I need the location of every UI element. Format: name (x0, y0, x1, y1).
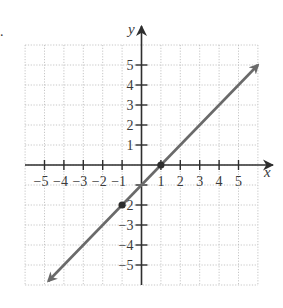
exercise-marker: . (0, 24, 4, 39)
x-tick-label: −5 (34, 174, 49, 189)
x-tick-label: 3 (196, 174, 203, 189)
y-tick-label: 2 (127, 118, 134, 133)
x-tick-label: 5 (235, 174, 242, 189)
x-tick-label: −3 (72, 174, 87, 189)
data-point (119, 201, 126, 208)
x-tick-label: −2 (92, 174, 107, 189)
plotted-line (48, 65, 258, 281)
line-y-equals-x-minus-1 (48, 65, 258, 281)
graph-figure: . −5−4−3−2−112345−5−4−3−212345 x y (0, 0, 283, 308)
x-tick-label: −1 (111, 174, 126, 189)
coordinate-plane: . −5−4−3−2−112345−5−4−3−212345 x y (0, 0, 283, 308)
y-tick-label: 1 (127, 138, 134, 153)
y-axis-label: y (126, 21, 135, 37)
y-tick-label: −4 (119, 238, 134, 253)
y-tick-label: 3 (127, 98, 134, 113)
x-tick-label: −4 (53, 174, 68, 189)
y-tick-label: −5 (119, 258, 134, 273)
x-tick-label: 1 (157, 174, 164, 189)
y-tick-label: 4 (127, 78, 134, 93)
y-tick-label: −3 (119, 218, 134, 233)
y-tick-label: 5 (127, 58, 134, 73)
data-point (157, 161, 164, 168)
x-axis-label: x (263, 164, 271, 180)
x-tick-label: 2 (177, 174, 184, 189)
x-tick-label: 4 (216, 174, 223, 189)
